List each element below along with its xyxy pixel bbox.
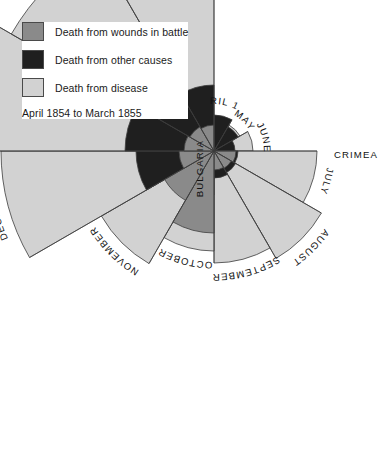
legend-item-disease: Death from disease [22, 78, 188, 97]
legend-swatch-other [22, 50, 44, 69]
legend: Death from wounds in battle Death from o… [22, 22, 188, 119]
rose-diagram-page: Death from wounds in battle Death from o… [0, 0, 390, 464]
legend-item-other: Death from other causes [22, 50, 188, 69]
legend-swatch-disease [22, 78, 44, 97]
month-label-june: JUNE [255, 120, 273, 153]
region-label-crimea: CRIMEA [334, 149, 378, 160]
month-label-july: JULY [318, 167, 336, 197]
legend-date-range: April 1854 to March 1855 [22, 107, 188, 119]
legend-label-other: Death from other causes [55, 54, 172, 66]
legend-item-wounds: Death from wounds in battle [22, 22, 188, 41]
region-label-bulgaria: BULGARIA [194, 140, 205, 197]
month-label-may: MAY [233, 107, 258, 132]
legend-swatch-wounds [22, 22, 44, 41]
legend-label-wounds: Death from wounds in battle [55, 26, 188, 38]
legend-label-disease: Death from disease [55, 82, 148, 94]
